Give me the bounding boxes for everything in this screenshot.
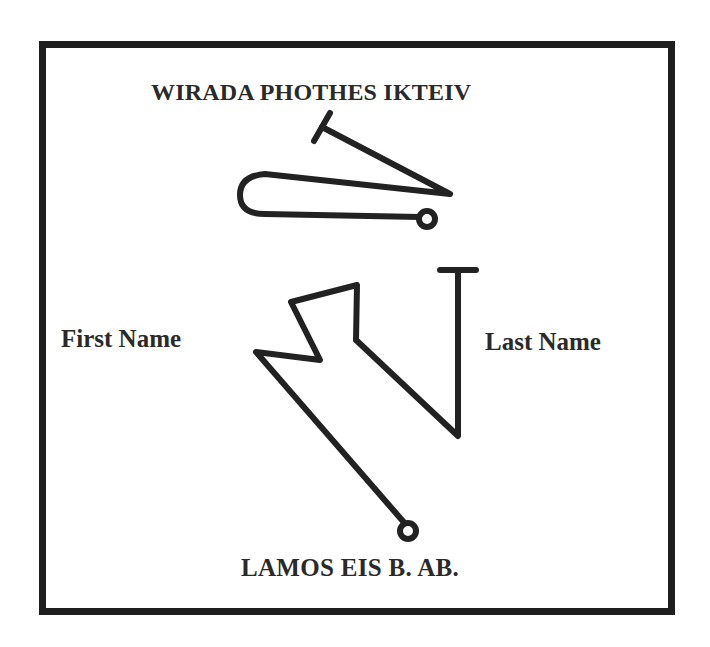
first-name-label: First Name: [61, 326, 181, 351]
bottom-caption: LAMOS EIS B. AB.: [241, 555, 459, 580]
lower-signature: [256, 270, 476, 539]
last-name-label: Last Name: [485, 329, 601, 354]
upper-signature: [240, 113, 450, 227]
upper-end-circle: [419, 211, 435, 227]
lower-zigzag-stroke: [256, 272, 458, 527]
upper-loop-stroke: [240, 127, 450, 217]
lower-end-circle: [400, 523, 416, 539]
diagram-title: WIRADA PHOTHES IKTEIV: [151, 80, 471, 104]
